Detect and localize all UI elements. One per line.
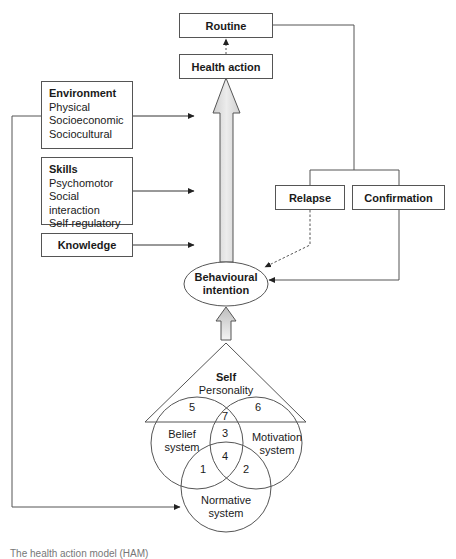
knowledge-label: Knowledge <box>58 239 117 251</box>
region-3: 3 <box>219 427 231 440</box>
small-arrow-to-intention <box>216 307 236 340</box>
belief-system-label: Belief system <box>157 428 207 454</box>
skills-box: Skills Psychomotor Social interaction Se… <box>41 157 133 225</box>
normative-line1: Normative <box>193 494 259 507</box>
normative-line2: system <box>193 507 259 520</box>
confirmation-label: Confirmation <box>364 192 432 204</box>
behavioural-intention-line2: intention <box>186 284 266 297</box>
skills-title: Skills <box>49 163 125 177</box>
behavioural-intention-line1: Behavioural <box>186 271 266 284</box>
region-5: 5 <box>186 401 198 414</box>
environment-item: Physical <box>49 101 125 115</box>
environment-item: Sociocultural <box>49 128 125 142</box>
environment-item: Socioeconomic <box>49 114 125 128</box>
big-arrow-to-health-action <box>213 78 240 262</box>
relapse-label: Relapse <box>289 192 331 204</box>
region-4: 4 <box>219 450 231 463</box>
branch-line <box>310 170 399 185</box>
health-action-box: Health action <box>179 54 273 79</box>
routine-box: Routine <box>179 13 273 38</box>
self-title: Self <box>196 371 256 384</box>
region-1: 1 <box>197 463 209 476</box>
health-action-label: Health action <box>191 61 260 73</box>
motivation-line1: Motivation <box>245 431 309 444</box>
environment-box: Environment Physical Socioeconomic Socio… <box>41 81 133 149</box>
self-subtitle: Personality <box>186 384 266 397</box>
relapse-box: Relapse <box>275 185 345 210</box>
region-2: 2 <box>240 463 252 476</box>
confirmation-arrow <box>269 210 399 280</box>
skills-item: Social interaction <box>49 190 125 217</box>
belief-line1: Belief <box>157 428 207 441</box>
relapse-dashed-arrow <box>265 210 310 267</box>
routine-label: Routine <box>206 20 247 32</box>
routine-feedback-line <box>273 25 354 170</box>
knowledge-box: Knowledge <box>41 233 133 257</box>
figure-caption: The health action model (HAM) <box>10 548 148 559</box>
environment-title: Environment <box>49 87 125 101</box>
motivation-system-label: Motivation system <box>245 431 309 457</box>
region-6: 6 <box>252 401 264 414</box>
confirmation-box: Confirmation <box>352 185 445 210</box>
behavioural-intention-label: Behavioural intention <box>186 271 266 297</box>
normative-system-label: Normative system <box>193 494 259 520</box>
region-7: 7 <box>219 410 231 423</box>
skills-item: Psychomotor <box>49 177 125 191</box>
belief-line2: system <box>157 441 207 454</box>
motivation-line2: system <box>245 444 309 457</box>
skills-item: Self-regulatory <box>49 217 125 231</box>
